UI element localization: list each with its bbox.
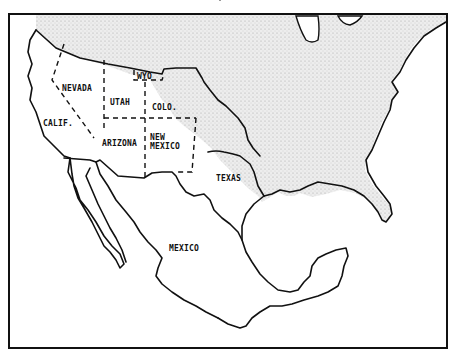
label-new-mexico-line2: MEXICO	[150, 142, 180, 151]
label-arizona: ARIZONA	[102, 139, 137, 148]
label-utah: UTAH	[110, 98, 130, 107]
map-canvas: NEVADA UTAH WYO COLO. CALIF. ARIZONA NEW…	[0, 0, 455, 351]
label-new-mexico-line1: NEW	[150, 133, 165, 142]
label-texas: TEXAS	[216, 174, 241, 183]
label-nevada: NEVADA	[62, 84, 92, 93]
label-colo: COLO.	[152, 103, 177, 112]
label-calif: CALIF.	[43, 119, 73, 128]
label-wyo: WYO	[137, 72, 152, 81]
label-mexico: MEXICO	[169, 244, 199, 253]
